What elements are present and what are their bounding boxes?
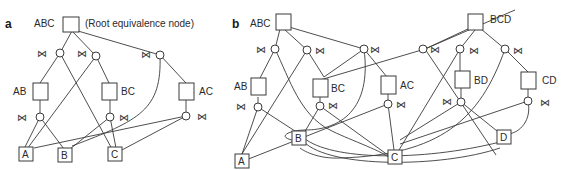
node-b-label: B [295,133,302,144]
join-icon: ⋈ [236,101,246,112]
join-icon: ⋈ [396,99,406,110]
node-ab[interactable] [33,83,48,100]
node-ac-label: AC [400,80,414,91]
node-bc[interactable] [313,79,328,97]
panel-a-label: a [5,17,12,31]
root-note: (Root equivalence node) [85,18,194,29]
node-a-label: A [238,156,245,167]
panel-b-label: b [232,17,239,31]
panel-b: b ABC BCD [232,10,556,168]
node-bd[interactable] [455,71,470,88]
join-icon: ⋈ [77,48,87,59]
join-node[interactable] [106,113,114,121]
node-bc[interactable] [102,83,117,100]
node-c-label: C [391,152,398,163]
node-ac[interactable] [381,76,396,94]
join-node[interactable] [56,49,64,57]
node-ab-label: AB [234,81,248,92]
node-c-label: C [111,149,118,160]
join-node[interactable] [303,46,311,54]
node-bcd[interactable] [468,14,483,30]
join-icon: ⋈ [430,44,440,55]
join-node[interactable] [384,100,392,108]
join-node[interactable] [501,45,509,53]
node-d-label: D [500,132,507,143]
node-bc-label: BC [331,83,345,94]
node-a-label: A [22,149,29,160]
node-cd-label: CD [542,75,556,86]
join-icon: ⋈ [442,96,452,107]
join-icon: ⋈ [328,100,338,111]
join-icon: ⋈ [469,45,479,56]
node-bd-label: BD [474,75,488,86]
node-abc[interactable] [276,14,291,30]
join-icon: ⋈ [513,45,523,56]
node-cd[interactable] [521,72,536,89]
node-ab[interactable] [251,78,266,95]
equivalence-graph-svg: a ABC (Root equivalence node) ⋈ ⋈ [0,0,568,170]
node-ac-label: AC [199,86,213,97]
node-ac[interactable] [179,83,194,100]
join-node[interactable] [360,45,368,53]
node-ab-label: AB [13,86,27,97]
join-icon: ⋈ [17,112,27,123]
join-node[interactable] [419,45,427,53]
join-node[interactable] [524,97,532,105]
join-node[interactable] [254,103,262,111]
join-icon: ⋈ [540,97,550,108]
diagram-stage: a ABC (Root equivalence node) ⋈ ⋈ [0,0,568,170]
node-abc-label: ABC [34,18,55,29]
node-abc-label: ABC [250,18,271,29]
join-icon: ⋈ [119,112,129,123]
join-node[interactable] [457,98,465,106]
node-bc-label: BC [121,86,135,97]
join-node[interactable] [156,51,164,59]
join-icon: ⋈ [370,44,380,55]
join-icon: ⋈ [256,44,266,55]
node-abc[interactable] [63,17,79,32]
join-node[interactable] [182,112,190,120]
join-icon: ⋈ [37,48,47,59]
join-icon: ⋈ [197,111,207,122]
join-node[interactable] [92,52,100,60]
join-node[interactable] [316,102,324,110]
join-node[interactable] [271,45,279,53]
node-b-label: B [61,150,68,161]
join-node[interactable] [36,113,44,121]
panel-a: a ABC (Root equivalence node) ⋈ ⋈ [5,17,213,162]
join-icon: ⋈ [141,49,151,60]
join-icon: ⋈ [315,45,325,56]
join-node[interactable] [456,45,464,53]
